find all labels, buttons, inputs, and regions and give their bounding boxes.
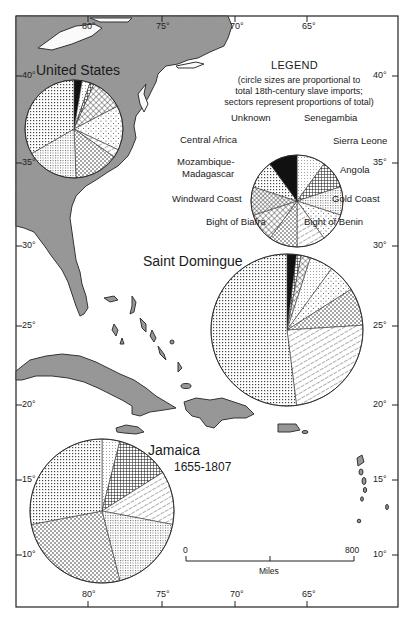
- united-states-title: United States: [36, 62, 120, 78]
- jamaica-title: Jamaica: [148, 442, 200, 458]
- pie-united-states: [25, 80, 123, 178]
- scale-start-label: 0: [183, 545, 188, 555]
- legend-label-bight-of-benin: Bight of Benin: [304, 216, 363, 227]
- legend-label-windward-coast: Windward Coast: [172, 193, 242, 204]
- legend-title: LEGEND: [271, 59, 318, 71]
- lon-label-70-top: 70°: [230, 21, 244, 31]
- lat-label-20-right: 20°: [373, 399, 387, 409]
- pie-jamaica-1655-1807: [30, 439, 174, 583]
- lon-label-70-bottom: 70°: [230, 589, 244, 599]
- lat-label-40-left: 40°: [22, 70, 36, 80]
- legend-label-senegambia: Senegambia: [304, 112, 357, 123]
- lat-label-20-left: 20°: [22, 399, 36, 409]
- lat-label-10-left: 10°: [22, 549, 36, 559]
- lat-label-30-left: 30°: [22, 240, 36, 250]
- legend-note-2: total 18th-century slave imports;: [224, 86, 374, 97]
- pie-legend: [251, 155, 343, 247]
- legend-note-3: sectors represent proportions of total): [212, 97, 386, 108]
- legend-label-mozambique: Mozambique-: [177, 156, 235, 167]
- lat-label-40-right: 40°: [373, 70, 387, 80]
- lat-label-25-left: 25°: [22, 320, 36, 330]
- lat-label-35-right: 35°: [373, 157, 387, 167]
- lat-label-15-left: 15°: [22, 474, 36, 484]
- saint-domingue-title: Saint Domingue: [143, 253, 243, 269]
- lon-label-75-bottom: 75°: [156, 589, 170, 599]
- lat-label-35-left: 35°: [22, 157, 36, 167]
- legend-label-unknown: Unknown: [231, 112, 271, 123]
- legend-label-sierra-leone: Sierra Leone: [333, 135, 387, 146]
- jamaica-years: 1655-1807: [174, 460, 231, 474]
- legend-label-central-africa: Central Africa: [180, 134, 237, 145]
- lat-label-15-right: 15°: [373, 474, 387, 484]
- lon-label-75-top: 75°: [156, 21, 170, 31]
- lat-label-25-right: 25°: [373, 320, 387, 330]
- scale-end-label: 800: [345, 545, 359, 555]
- legend-label-bight-of-biafra: Bight of Biafra: [206, 216, 266, 227]
- legend-label-gold-coast: Gold Coast: [332, 193, 380, 204]
- scale-unit-label: Miles: [259, 566, 279, 576]
- puerto-rico-land: [278, 424, 300, 432]
- legend-label-madagascar: Madagascar: [182, 168, 234, 179]
- lat-label-30-right: 30°: [373, 240, 387, 250]
- legend-note-1: (circle sizes are proportional to: [224, 75, 374, 86]
- lon-label-80-bottom: 80°: [82, 589, 96, 599]
- lon-label-80-top: 80°: [82, 21, 96, 31]
- legend-label-angola: Angola: [340, 164, 370, 175]
- lon-label-65-bottom: 65°: [302, 589, 316, 599]
- pie-saint-domingue: [211, 254, 363, 406]
- lon-label-65-top: 65°: [302, 21, 316, 31]
- lat-label-10-right: 10°: [373, 549, 387, 559]
